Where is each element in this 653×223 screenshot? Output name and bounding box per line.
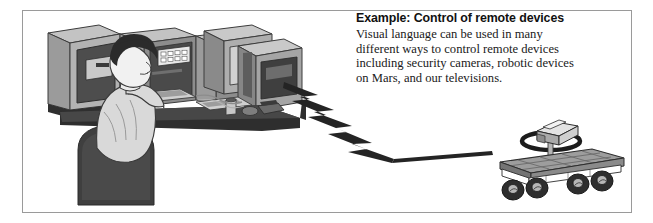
caption-line: different ways to control remote devices	[356, 42, 618, 57]
remote-rover	[500, 120, 624, 200]
button-panel[interactable]	[158, 46, 190, 66]
rover-wheel	[567, 174, 589, 194]
caption-body: Visual language can be used in many diff…	[356, 27, 618, 85]
desk-mouse[interactable]	[242, 107, 258, 116]
crt-monitor-right	[238, 39, 302, 110]
control-console	[48, 25, 306, 131]
caption-block: Example: Control of remote devices Visua…	[356, 11, 618, 85]
rover-wheel	[526, 178, 548, 198]
rover-wheel	[502, 180, 524, 200]
caption-line: on Mars, and our televisions.	[356, 71, 618, 86]
signal-bolt-icon	[283, 82, 493, 163]
rover-wheel	[591, 171, 613, 191]
caption-line: including security cameras, robotic devi…	[356, 56, 618, 71]
figure-container: Example: Control of remote devices Visua…	[0, 0, 653, 223]
camera-head-icon	[537, 120, 578, 145]
caption-heading: Example: Control of remote devices	[356, 11, 618, 26]
caption-line: Visual language can be used in many	[356, 27, 618, 42]
